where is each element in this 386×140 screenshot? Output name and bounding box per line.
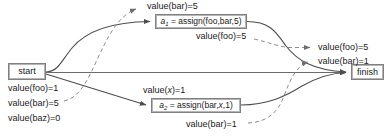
- label-top-value-bar: value(bar)=5: [147, 2, 198, 11]
- node-start-label: start: [18, 67, 36, 76]
- label-output-value-foo: value(foo)=5: [318, 43, 368, 52]
- node-finish-inner: finish: [352, 65, 383, 79]
- edge-dep-bar-out: [248, 62, 308, 123]
- node-a2-expr-pre: = assign(bar,: [167, 100, 218, 110]
- node-a2-inner: a2 = assign(bar,x,1): [152, 99, 240, 112]
- label-start-value-baz: value(baz)=0: [8, 114, 60, 123]
- label-a2-value-bar: value(bar)=1: [186, 120, 237, 129]
- node-a2-subscript: 2: [164, 105, 167, 111]
- edge-a2-to-finish: [241, 73, 346, 106]
- node-finish[interactable]: finish: [351, 64, 384, 80]
- label-a1-value-foo: value(foo)=5: [196, 32, 246, 41]
- node-finish-label: finish: [357, 68, 378, 77]
- node-a2-label: a2 = assign(bar,x,1): [159, 101, 233, 110]
- diagram-canvas: start finish a1 = assign(foo,bar,5) a2 =…: [0, 0, 386, 140]
- node-a1-inner: a1 = assign(foo,bar,5): [156, 15, 246, 28]
- label-value-x-pre: value(: [143, 85, 168, 95]
- node-start-inner: start: [9, 64, 45, 79]
- node-a1-subscript: 1: [165, 21, 168, 27]
- node-a2-expr-post: ,1): [223, 100, 233, 110]
- label-start-value-foo: value(foo)=1: [8, 84, 58, 93]
- label-value-x-post: )=1: [172, 85, 185, 95]
- label-output-value-bar: value(bar)=1: [318, 57, 369, 66]
- label-value-x: value(x)=1: [143, 86, 185, 95]
- edge-start-to-a2: [46, 74, 146, 105]
- node-a1-expr: = assign(foo,bar,5): [169, 16, 242, 26]
- edge-start-to-a1: [46, 22, 150, 73]
- node-a1-label: a1 = assign(foo,bar,5): [160, 17, 241, 26]
- node-start[interactable]: start: [8, 63, 46, 80]
- node-action-a1[interactable]: a1 = assign(foo,bar,5): [155, 14, 247, 29]
- label-start-value-bar: value(bar)=5: [8, 99, 59, 108]
- node-action-a2[interactable]: a2 = assign(bar,x,1): [151, 98, 241, 113]
